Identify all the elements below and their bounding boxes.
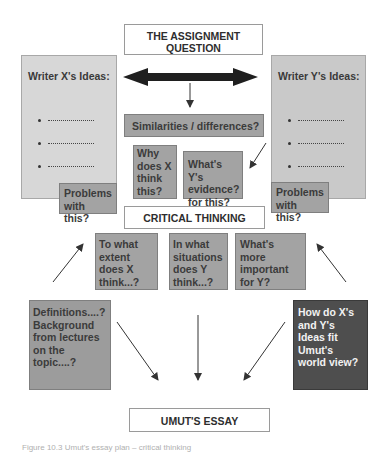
to-what-extent-label: To what extent does X think...? (99, 238, 139, 288)
umuts-essay-box: UMUT'S ESSAY (129, 408, 270, 432)
why-does-x-label: Why does X think this? (137, 147, 171, 197)
whats-more-important-label: What's more important for Y? (240, 238, 288, 288)
whats-y-evidence-box: What's Y's evidence? for this? (183, 151, 243, 199)
umuts-essay-label: UMUT'S ESSAY (161, 415, 238, 427)
writer-y-title: Writer Y's Ideas: (278, 70, 359, 82)
in-what-situations-box: In what situations does Y think...? (169, 233, 228, 290)
similarities-box: Similarities / differences? (124, 114, 264, 137)
similarities-label: Similarities / differences? (132, 120, 259, 132)
how-do-ideas-fit-box: How do X's and Y's Ideas fit Umut's worl… (293, 300, 368, 390)
writer-y-bullet-3 (288, 161, 344, 171)
to-what-extent-box: To what extent does X think...? (95, 233, 158, 290)
definitions-box: Definitions....? Background from lecture… (29, 300, 111, 390)
writer-y-bullet-1 (288, 115, 344, 125)
assignment-question-label: THE ASSIGNMENT QUESTION (147, 30, 241, 54)
problems-right-box: Problems with this? (271, 182, 329, 213)
whats-more-important-box: What's more important for Y? (235, 233, 306, 290)
assignment-question-box: THE ASSIGNMENT QUESTION (124, 24, 263, 55)
writer-y-bullet-2 (288, 138, 344, 148)
figure-caption: Figure 10.3 Umut's essay plan – critical… (22, 443, 191, 452)
writer-x-bullet-1 (38, 115, 94, 125)
how-do-ideas-fit-label: How do X's and Y's Ideas fit Umut's worl… (298, 306, 358, 368)
writer-x-title: Writer X's Ideas: (28, 70, 110, 82)
critical-thinking-label: CRITICAL THINKING (143, 212, 245, 224)
critical-thinking-box: CRITICAL THINKING (124, 206, 265, 229)
problems-left-box: Problems with this? (59, 183, 117, 214)
definitions-label: Definitions....? Background from lecture… (33, 306, 105, 368)
in-what-situations-label: In what situations does Y think...? (173, 238, 223, 288)
why-does-x-box: Why does X think this? (133, 145, 177, 199)
writer-y-ideas-box: Writer Y's Ideas: (271, 55, 366, 199)
writer-x-bullet-2 (38, 138, 94, 148)
writer-x-ideas-box: Writer X's Ideas: (21, 55, 117, 199)
writer-x-bullet-3 (38, 161, 94, 171)
